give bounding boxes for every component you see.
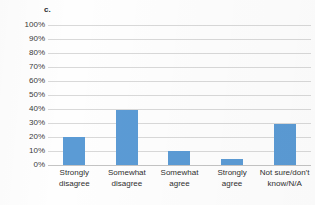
x-axis-category-label: Stronglyagree bbox=[206, 168, 259, 189]
x-axis-category-label: Not sure/don’tknow/N/A bbox=[258, 168, 311, 189]
x-axis-category-label-line: Somewhat bbox=[161, 168, 199, 177]
y-axis-tick-label: 10% bbox=[1, 147, 45, 155]
bar-slot bbox=[258, 25, 311, 165]
bar-slot bbox=[101, 25, 154, 165]
x-axis-category-label-line: Not sure/don’t bbox=[260, 168, 310, 177]
y-axis-tick-label: 30% bbox=[1, 119, 45, 127]
x-axis-category-label: Stronglydisagree bbox=[48, 168, 101, 189]
bar[interactable] bbox=[168, 151, 190, 165]
x-axis-category-label-line: Strongly bbox=[217, 168, 246, 177]
y-axis-tick-label: 60% bbox=[1, 77, 45, 85]
bar-series bbox=[48, 25, 311, 165]
x-axis-category-label-line: agree bbox=[153, 179, 206, 190]
y-axis-tick-label: 20% bbox=[1, 133, 45, 141]
x-axis-labels: StronglydisagreeSomewhatdisagreeSomewhat… bbox=[48, 168, 311, 202]
bar-slot bbox=[206, 25, 259, 165]
bar[interactable] bbox=[221, 159, 243, 165]
y-axis-tick-label: 100% bbox=[1, 21, 45, 29]
bar[interactable] bbox=[116, 110, 138, 165]
x-axis-category-label-line: Somewhat bbox=[108, 168, 146, 177]
bar-slot bbox=[48, 25, 101, 165]
x-axis-category-label-line: Strongly bbox=[60, 168, 89, 177]
x-axis-category-label-line: disagree bbox=[48, 179, 101, 190]
y-axis-tick-label: 40% bbox=[1, 105, 45, 113]
panel-label: c. bbox=[44, 5, 51, 14]
x-axis-category-label-line: agree bbox=[206, 179, 259, 190]
x-axis-category-label: Somewhatdisagree bbox=[101, 168, 154, 189]
bar-slot bbox=[153, 25, 206, 165]
gridline: 0% bbox=[48, 165, 311, 166]
y-axis-tick-label: 70% bbox=[1, 63, 45, 71]
y-axis-tick-label: 0% bbox=[1, 161, 45, 169]
bar[interactable] bbox=[274, 124, 296, 165]
chart-page: c. 100%90%80%70%60%50%40%30%20%10%0% Str… bbox=[0, 0, 315, 205]
x-axis-category-label-line: know/N/A bbox=[258, 179, 311, 190]
x-axis-category-label-line: disagree bbox=[101, 179, 154, 190]
plot-area: 100%90%80%70%60%50%40%30%20%10%0% bbox=[48, 25, 311, 165]
y-axis-tick-label: 80% bbox=[1, 49, 45, 57]
y-axis-tick-label: 50% bbox=[1, 91, 45, 99]
x-axis-category-label: Somewhatagree bbox=[153, 168, 206, 189]
bar[interactable] bbox=[63, 137, 85, 165]
y-axis-tick-label: 90% bbox=[1, 35, 45, 43]
